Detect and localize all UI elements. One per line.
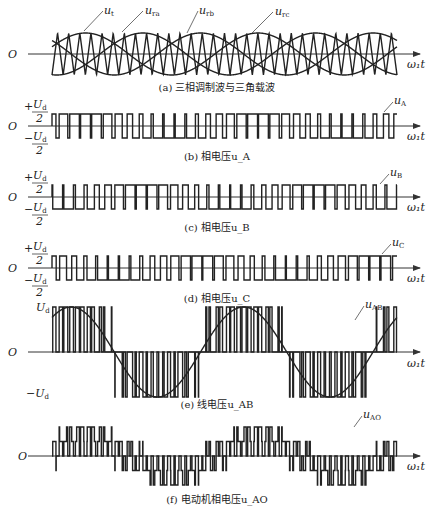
caption-f: (f) 电动机相电压u_AO xyxy=(166,493,268,506)
svg-text:urb: urb xyxy=(199,4,214,18)
x-axis-label: ω₁t xyxy=(407,130,425,143)
y-label-minus-ud: −Ud xyxy=(26,387,50,401)
panel-f-motor-phase-voltage-uao: O uAO ω₁t (f) 电动机相电压u_AO xyxy=(18,408,425,506)
x-axis-label: ω₁t xyxy=(407,272,425,285)
panel-e-line-voltage-uab: Ud O −Ud uAB ω₁t (e) 线电压u_AB xyxy=(8,298,425,411)
svg-text:−: − xyxy=(24,132,33,145)
svg-text:−: − xyxy=(24,203,33,216)
curve-label-uc: uC xyxy=(392,236,404,250)
caption-c: (c) 相电压u_B xyxy=(184,221,249,234)
svg-text:Ud: Ud xyxy=(33,169,47,183)
y-label-minus-half-ud: −Ud 2 xyxy=(24,130,48,157)
svg-text:2: 2 xyxy=(35,286,43,299)
spwm-waveform-figure: O ω₁t ut ura urb urc (a) 三相调制波与三角载波 +Ud … xyxy=(0,0,434,514)
origin-label: O xyxy=(18,450,27,463)
svg-text:2: 2 xyxy=(35,112,43,125)
svg-text:Ud: Ud xyxy=(33,98,47,112)
panel-a-modulation-carrier: O ω₁t ut ura urb urc (a) 三相调制波与三角载波 xyxy=(8,4,425,93)
panel-c-phase-voltage-ub: +Ud 2 O −Ud 2 uB ω₁t (c) 相电压u_B xyxy=(8,166,425,234)
svg-text:ura: ura xyxy=(145,4,160,18)
svg-text:Ud: Ud xyxy=(33,201,47,215)
svg-text:+: + xyxy=(24,171,33,184)
svg-text:Ud: Ud xyxy=(33,130,47,144)
y-label-minus-half-ud: −Ud 2 xyxy=(24,272,48,299)
panel-d-phase-voltage-uc: +Ud 2 O −Ud 2 uC ω₁t (d) 相电压u_C xyxy=(8,236,425,305)
svg-text:2: 2 xyxy=(35,183,43,196)
origin-label: O xyxy=(8,262,17,275)
origin-label: O xyxy=(8,346,17,359)
svg-text:+: + xyxy=(24,242,33,255)
x-axis-label: ω₁t xyxy=(407,460,425,473)
svg-text:ut: ut xyxy=(104,4,114,18)
curve-labels: ut ura urb urc xyxy=(84,4,289,33)
origin-label: O xyxy=(8,48,17,61)
svg-text:urc: urc xyxy=(275,5,289,19)
caption-d: (d) 相电压u_C xyxy=(184,292,251,305)
x-axis-label: ω₁t xyxy=(407,201,425,214)
x-axis-label: ω₁t xyxy=(407,357,425,370)
motor-phase-voltage-waveform xyxy=(52,427,397,485)
line-voltage-pwm-waveform xyxy=(52,307,397,397)
svg-text:Ud: Ud xyxy=(33,240,47,254)
curve-label-uab: uAB xyxy=(365,298,382,312)
y-label-minus-half-ud: −Ud 2 xyxy=(24,201,48,228)
x-axis-label: ω₁t xyxy=(407,58,425,71)
curve-label-uao: uAO xyxy=(363,408,381,422)
origin-label: O xyxy=(8,191,17,204)
y-label-plus-half-ud: +Ud 2 xyxy=(24,169,48,196)
y-label-plus-half-ud: +Ud 2 xyxy=(24,240,48,267)
caption-e: (e) 线电压u_AB xyxy=(181,398,254,411)
svg-text:2: 2 xyxy=(35,254,43,267)
origin-label: O xyxy=(8,120,17,133)
panel-b-phase-voltage-ua: +Ud 2 O −Ud 2 uA ω₁t (b) 相电压u_A xyxy=(8,94,425,163)
svg-text:Ud: Ud xyxy=(33,272,47,286)
svg-text:+: + xyxy=(24,100,33,113)
curve-label-ub: uB xyxy=(390,166,402,180)
y-label-ud: Ud xyxy=(36,301,50,315)
caption-a: (a) 三相调制波与三角载波 xyxy=(159,81,276,93)
svg-text:−: − xyxy=(24,274,33,287)
y-label-plus-half-ud: +Ud 2 xyxy=(24,98,48,125)
svg-text:2: 2 xyxy=(35,215,43,228)
curve-label-ua: uA xyxy=(394,94,407,108)
svg-text:2: 2 xyxy=(35,144,43,157)
caption-b: (b) 相电压u_A xyxy=(184,150,251,163)
